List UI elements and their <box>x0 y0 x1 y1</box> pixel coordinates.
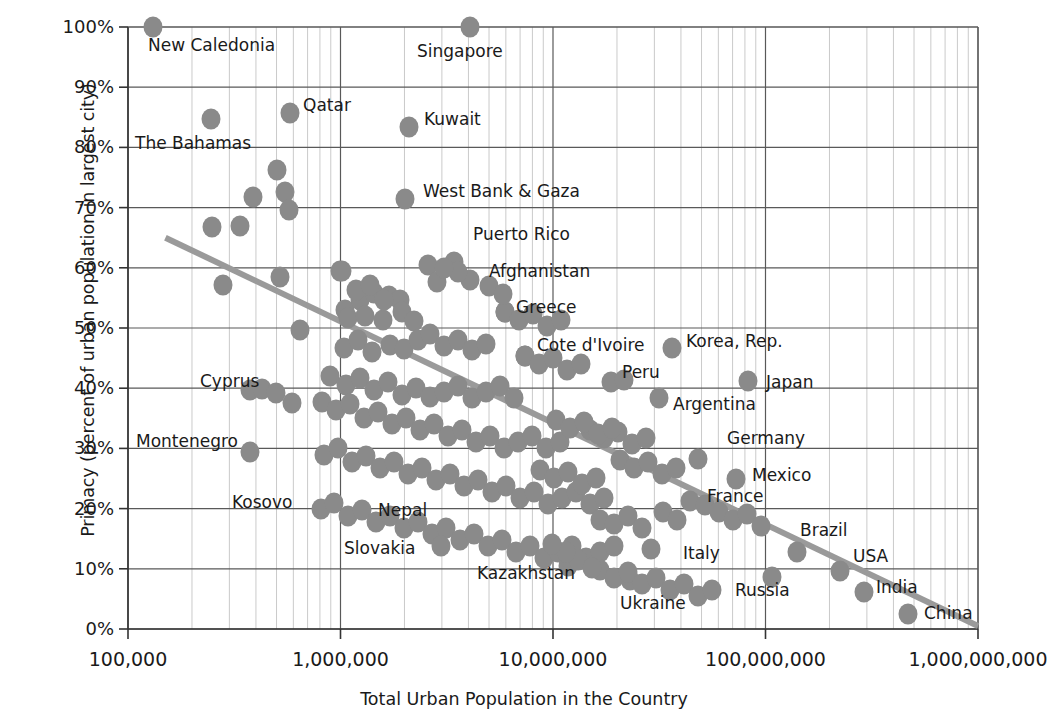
point-label: China <box>924 605 973 622</box>
data-point <box>788 542 807 563</box>
data-point <box>374 310 393 331</box>
x-tick-label: 100,000 <box>8 648 248 670</box>
y-tick-label: 40% <box>74 377 114 398</box>
data-point <box>855 582 874 603</box>
data-point <box>543 534 562 555</box>
x-tick-label: 100,000,000 <box>646 648 886 670</box>
point-label: Nepal <box>378 502 427 519</box>
data-point <box>505 388 524 409</box>
y-tick-label: 60% <box>74 257 114 278</box>
plot-svg <box>0 0 1048 723</box>
scatter-chart: Primacy (percent of urban population in … <box>0 0 1048 723</box>
data-point <box>637 428 656 449</box>
data-point <box>667 458 686 479</box>
data-point <box>203 217 222 238</box>
data-point <box>603 418 622 439</box>
data-point <box>633 518 652 539</box>
data-point <box>356 306 375 327</box>
point-label: Russia <box>735 582 790 599</box>
point-label: West Bank & Gaza <box>423 183 580 200</box>
data-point <box>831 561 850 582</box>
point-label: USA <box>853 548 888 565</box>
point-label: Germany <box>727 430 805 447</box>
data-point <box>363 342 382 363</box>
y-tick-label: 30% <box>74 437 114 458</box>
data-point <box>283 393 302 414</box>
point-label: Argentina <box>673 396 756 413</box>
point-label: Montenegro <box>136 433 238 450</box>
data-point <box>241 442 260 463</box>
data-point <box>461 17 480 38</box>
point-label: Italy <box>683 545 720 562</box>
y-tick-label: 20% <box>74 498 114 519</box>
point-label: Korea, Rep. <box>686 333 783 350</box>
y-tick-label: 70% <box>74 197 114 218</box>
point-label: Kosovo <box>232 494 292 511</box>
data-point <box>276 182 295 203</box>
data-point <box>400 117 419 138</box>
point-label: Kazakhstan <box>477 565 575 582</box>
data-point <box>202 109 221 130</box>
point-label: Cote d'Ivoire <box>537 337 645 354</box>
y-tick-label: 80% <box>74 136 114 157</box>
y-tick-label: 100% <box>63 16 114 37</box>
point-label: Singapore <box>417 43 503 60</box>
point-label: New Caledonia <box>148 37 275 54</box>
data-point <box>267 383 286 404</box>
x-axis-title: Total Urban Population in the Country <box>0 689 1048 709</box>
x-tick-label: 10,000,000 <box>433 648 673 670</box>
data-point <box>739 371 758 392</box>
data-point <box>595 488 614 509</box>
data-point <box>339 308 358 329</box>
point-label: Slovakia <box>344 540 415 557</box>
point-label: Afghanistan <box>489 263 590 280</box>
data-point <box>572 354 591 375</box>
point-label: Greece <box>516 299 577 316</box>
data-point <box>435 258 454 279</box>
data-point <box>689 449 708 470</box>
data-point <box>280 200 299 221</box>
x-tick-label: 1,000,000 <box>221 648 461 670</box>
data-point <box>587 468 606 489</box>
data-point <box>244 187 263 208</box>
data-point <box>899 604 918 625</box>
data-point <box>361 275 380 296</box>
data-point <box>477 334 496 355</box>
y-tick-label: 50% <box>74 317 114 338</box>
y-tick-label: 90% <box>74 76 114 97</box>
point-label: Brazil <box>800 522 847 539</box>
point-label: Cyprus <box>200 373 259 390</box>
data-point <box>494 284 513 305</box>
point-label: Kuwait <box>424 111 481 128</box>
data-point <box>668 510 687 531</box>
data-point <box>214 275 233 296</box>
data-point <box>752 516 771 537</box>
point-label: The Bahamas <box>135 135 251 152</box>
y-tick-label: 0% <box>85 618 114 639</box>
point-label: France <box>707 488 764 505</box>
data-point <box>268 160 287 181</box>
data-point <box>650 388 669 409</box>
data-point <box>642 539 661 560</box>
data-point <box>405 311 424 332</box>
point-label: Japan <box>766 374 813 391</box>
y-tick-label: 10% <box>74 558 114 579</box>
data-point <box>396 189 415 210</box>
data-point <box>291 320 310 341</box>
x-tick-label: 1,000,000,000 <box>858 648 1048 670</box>
data-point <box>583 558 602 579</box>
data-point <box>375 290 394 311</box>
point-label: Ukraine <box>620 595 686 612</box>
data-point <box>231 216 250 237</box>
data-point <box>271 267 290 288</box>
data-point <box>281 103 300 124</box>
point-label: Mexico <box>752 467 811 484</box>
point-label: Qatar <box>303 97 351 114</box>
data-point <box>333 261 352 282</box>
data-point <box>663 338 682 359</box>
data-point <box>605 536 624 557</box>
data-point <box>432 536 451 557</box>
point-label: Peru <box>622 364 660 381</box>
point-label: Puerto Rico <box>473 226 570 243</box>
data-point <box>703 580 722 601</box>
